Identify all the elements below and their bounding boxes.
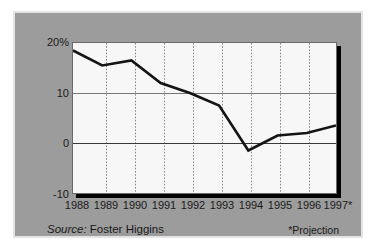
x-tick-1989: 1989 (94, 199, 118, 212)
source-label: Source: (47, 223, 87, 235)
x-tick-1993: 1993 (210, 199, 234, 212)
y-tick-0: 20% (23, 37, 69, 48)
source-value: Foster Higgins (90, 223, 164, 235)
y-tick-3: -10 (23, 189, 69, 200)
chart-figure: 20% 10 0 -10 (0, 0, 375, 249)
y-tick-1: 10 (23, 88, 69, 99)
x-tick-1991: 1991 (152, 199, 176, 212)
x-tick-1994: 1994 (239, 199, 263, 212)
projection-note: *Projection (288, 224, 339, 236)
x-tick-1988: 1988 (65, 199, 89, 212)
source-note: Source: Foster Higgins (47, 223, 164, 235)
x-tick-1995: 1995 (268, 199, 292, 212)
y-tick-2: 0 (23, 138, 69, 149)
chart-panel: 20% 10 0 -10 (13, 11, 363, 238)
x-tick-1996: 1996 (297, 199, 321, 212)
x-axis-labels: 1988 1989 1990 1991 1992 1993 1994 1995 … (72, 199, 347, 215)
data-series-line (73, 51, 336, 151)
x-tick-1997: 1997* (324, 199, 353, 212)
y-axis-labels: 20% 10 0 -10 (19, 42, 69, 194)
chart-plot-svg (73, 43, 336, 193)
x-tick-1990: 1990 (123, 199, 147, 212)
x-tick-1992: 1992 (181, 199, 205, 212)
plot-area (72, 42, 337, 194)
